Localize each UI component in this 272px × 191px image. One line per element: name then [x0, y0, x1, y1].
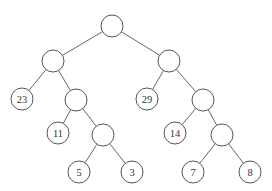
tree-edge-r3-n7 [200, 144, 215, 164]
node-circle [192, 89, 214, 111]
tree-node-23: 23 [11, 88, 33, 110]
tree-edge-l2-n11 [63, 110, 70, 124]
node-label: 11 [53, 128, 63, 139]
tree-node-r3 [211, 124, 233, 146]
node-circle [158, 50, 180, 72]
node-circle [65, 89, 87, 111]
tree-node-l1 [42, 50, 64, 72]
node-circle [101, 15, 123, 37]
tree-edge-root-r1 [121, 32, 159, 55]
node-circle [42, 50, 64, 72]
tree-node-8: 8 [239, 161, 261, 183]
tree-node-14: 14 [164, 122, 186, 144]
tree-node-29: 29 [136, 88, 158, 110]
tree-diagram: 232911145378 [0, 0, 272, 191]
tree-edge-l3-n3 [110, 144, 125, 164]
node-label: 5 [76, 167, 81, 178]
tree-nodes: 232911145378 [11, 15, 261, 183]
node-label: 29 [142, 94, 153, 105]
tree-edge-r3-n8 [229, 144, 244, 163]
tree-node-11: 11 [47, 122, 69, 144]
node-circle [211, 124, 233, 146]
node-label: 14 [170, 128, 181, 139]
tree-edge-l2-l3 [83, 109, 97, 127]
tree-node-5: 5 [68, 161, 90, 183]
tree-node-l2 [65, 89, 87, 111]
node-label: 7 [190, 167, 195, 178]
tree-edge-l1-l2 [59, 70, 71, 90]
node-label: 23 [17, 94, 28, 105]
tree-edge-l1-n23 [29, 70, 46, 91]
node-label: 8 [247, 167, 252, 178]
tree-edge-root-l1 [62, 32, 102, 56]
tree-node-root [101, 15, 123, 37]
tree-node-3: 3 [121, 161, 143, 183]
tree-edge-r1-r2 [176, 69, 196, 91]
tree-node-r2 [192, 89, 214, 111]
tree-edge-r1-n29 [153, 71, 164, 90]
tree-node-r1 [158, 50, 180, 72]
node-circle [92, 124, 114, 146]
tree-node-7: 7 [182, 161, 204, 183]
tree-edge-r2-r3 [208, 110, 217, 126]
tree-edge-l3-n5 [85, 144, 97, 163]
node-label: 3 [129, 167, 134, 178]
tree-node-l3 [92, 124, 114, 146]
tree-edge-r2-n14 [182, 108, 196, 124]
